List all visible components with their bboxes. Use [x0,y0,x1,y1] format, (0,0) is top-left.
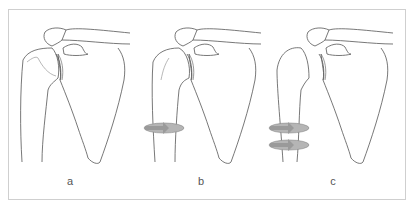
panel-label-b: b [191,175,211,187]
panel-a [21,28,130,163]
panel-label-a: a [60,175,80,187]
rotation-arrow-icon [269,139,309,151]
panel-c [269,28,393,163]
panel-b [144,28,261,163]
rotation-arrow-icon [269,122,309,134]
rotation-arrow-icon [144,122,184,134]
panel-label-c: c [323,175,343,187]
